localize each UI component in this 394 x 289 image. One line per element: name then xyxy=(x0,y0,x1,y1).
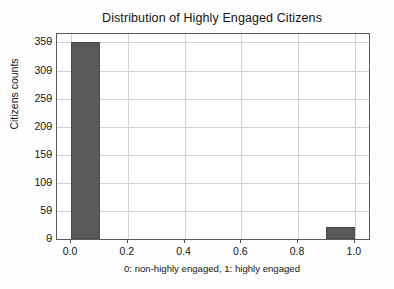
x-tick-label: 1.0 xyxy=(347,245,362,257)
bar xyxy=(326,227,354,239)
x-tick-label: 0.8 xyxy=(290,245,305,257)
x-tick-mark xyxy=(127,239,128,243)
y-tick-label: 100 xyxy=(10,176,52,188)
plot-area xyxy=(56,33,370,240)
y-tick-label: 150 xyxy=(10,148,52,160)
page-title: Distribution of Highly Engaged Citizens xyxy=(56,11,368,25)
x-tick-mark xyxy=(70,239,71,243)
x-tick-mark xyxy=(184,239,185,243)
x-tick-label: 0.4 xyxy=(176,245,191,257)
y-tick-label: 0 xyxy=(10,232,52,244)
x-tick-mark xyxy=(354,239,355,243)
x-axis-label: 0: non-highly engaged, 1: highly engaged xyxy=(56,263,368,274)
bar xyxy=(71,42,99,239)
y-tick-label: 350 xyxy=(10,35,52,47)
x-tick-mark xyxy=(240,239,241,243)
x-tick-label: 0.6 xyxy=(233,245,248,257)
x-tick-label: 0.2 xyxy=(120,245,135,257)
x-axis-ticks: 0.00.20.40.60.81.0 xyxy=(56,239,369,261)
y-tick-label: 200 xyxy=(10,120,52,132)
y-tick-label: 50 xyxy=(10,204,52,216)
x-tick-mark xyxy=(297,239,298,243)
y-axis-ticks: 050100150200250300350 xyxy=(0,33,52,238)
y-tick-label: 250 xyxy=(10,92,52,104)
x-tick-label: 0.0 xyxy=(63,245,78,257)
figure-canvas: Distribution of Highly Engaged Citizens … xyxy=(0,0,394,289)
y-tick-label: 300 xyxy=(10,64,52,76)
bar-series xyxy=(57,34,369,239)
